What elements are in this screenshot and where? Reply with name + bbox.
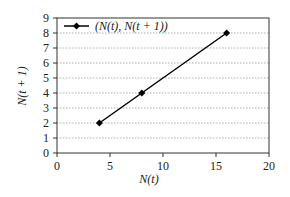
y-axis-ticks: 0123456789 [43, 11, 57, 160]
y-tick-label: 4 [43, 86, 49, 100]
x-tick-label: 15 [210, 159, 222, 173]
gridlines [57, 33, 269, 138]
y-tick-label: 3 [43, 101, 49, 115]
y-tick-label: 7 [43, 41, 49, 55]
y-tick-label: 6 [43, 56, 49, 70]
y-tick-label: 2 [43, 116, 49, 130]
legend-diamond-icon [73, 23, 80, 30]
data-series [96, 30, 230, 127]
y-tick-label: 1 [43, 131, 49, 145]
x-tick-label: 0 [54, 159, 60, 173]
legend: (N(t), N(t + 1)) [64, 19, 168, 33]
x-tick-label: 10 [157, 159, 169, 173]
x-axis-label: N(t) [138, 172, 158, 186]
chart: 0123456789 05101520 (N(t), N(t + 1)) N(t… [0, 0, 290, 197]
plot-frame [57, 18, 269, 153]
x-tick-label: 5 [107, 159, 113, 173]
x-tick-label: 20 [263, 159, 275, 173]
y-tick-label: 9 [43, 11, 49, 25]
x-axis-ticks: 05101520 [54, 153, 275, 173]
y-tick-label: 5 [43, 71, 49, 85]
legend-label: (N(t), N(t + 1)) [95, 19, 168, 33]
y-tick-label: 0 [43, 146, 49, 160]
y-tick-label: 8 [43, 26, 49, 40]
y-axis-label: N(t + 1) [15, 66, 29, 106]
